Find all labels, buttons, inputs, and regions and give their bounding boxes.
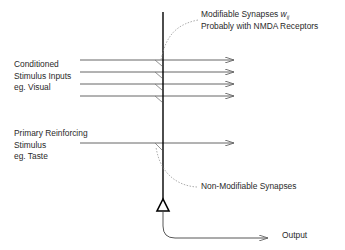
conditioned-input-lines	[80, 60, 234, 96]
weight-symbol: wij	[281, 9, 290, 19]
neuron-diagram	[0, 0, 345, 250]
modifiable-synapses-label: Modifiable Synapses wij Probably with NM…	[201, 9, 318, 32]
conditioned-stimulus-label: Conditioned Stimulus Inputs eg. Visual	[14, 59, 71, 94]
modifiable-pointer-dashed	[161, 20, 198, 60]
output-label: Output	[282, 230, 307, 242]
primary-reinforcing-label: Primary Reinforcing Stimulus eg. Taste	[14, 128, 88, 163]
output-axon	[163, 211, 268, 238]
cell-body-triangle	[157, 199, 169, 211]
non-modifiable-synapses-label: Non-Modifiable Synapses	[201, 181, 296, 193]
non-modifiable-pointer-dashed	[156, 147, 197, 187]
